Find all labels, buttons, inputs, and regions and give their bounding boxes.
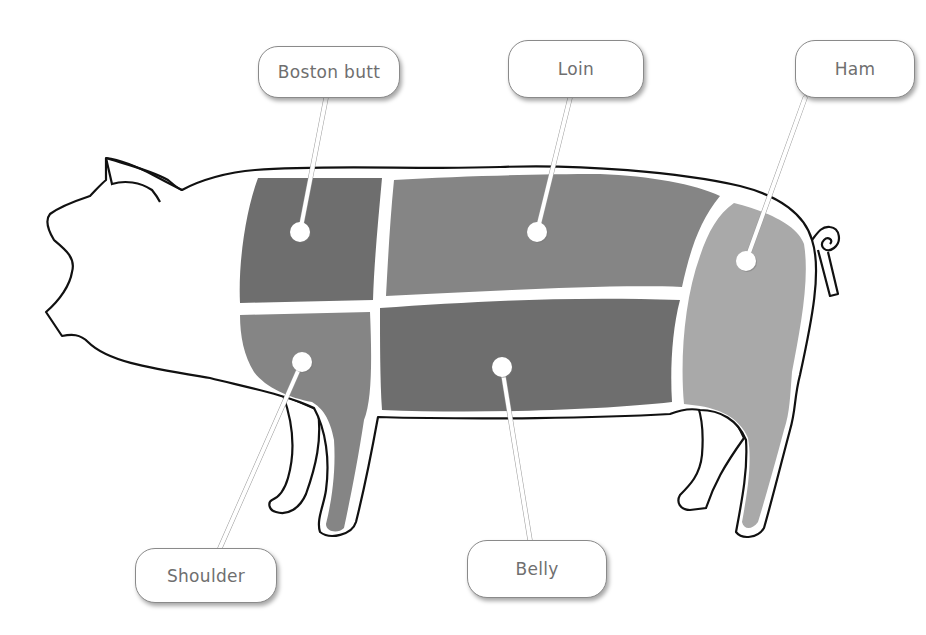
label-ham-text: Ham: [835, 59, 876, 79]
label-ham[interactable]: Ham: [795, 40, 915, 98]
label-boston-butt-text: Boston butt: [278, 62, 380, 82]
far-front-leg: [269, 395, 319, 513]
label-loin[interactable]: Loin: [508, 40, 644, 98]
cut-boston-butt[interactable]: [240, 178, 382, 303]
label-boston-butt[interactable]: Boston butt: [258, 46, 400, 98]
label-belly[interactable]: Belly: [467, 540, 607, 598]
cut-loin[interactable]: [386, 174, 720, 296]
pig-illustration: [0, 0, 926, 635]
label-loin-text: Loin: [558, 59, 594, 79]
cut-belly[interactable]: [380, 299, 680, 412]
label-shoulder[interactable]: Shoulder: [135, 548, 277, 603]
pork-cuts-diagram: Boston butt Loin Ham Shoulder Belly: [0, 0, 926, 635]
label-shoulder-text: Shoulder: [167, 566, 245, 586]
label-belly-text: Belly: [515, 559, 558, 579]
